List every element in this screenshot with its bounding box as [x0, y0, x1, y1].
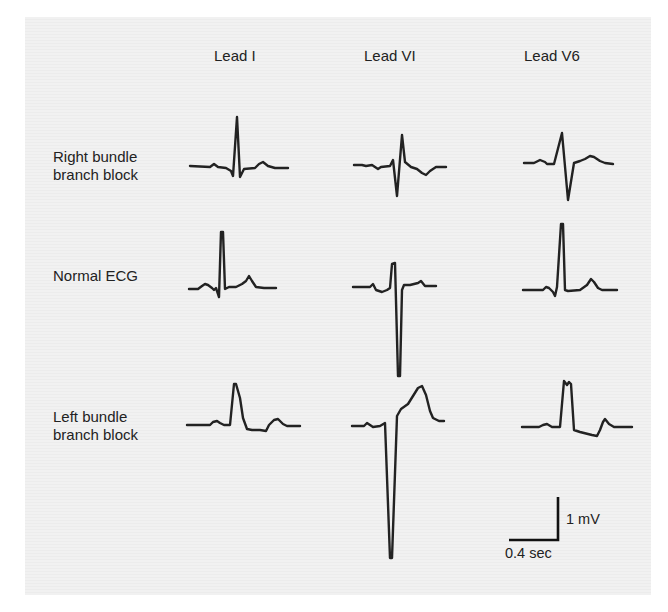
ecg-trace-3	[189, 232, 276, 297]
scale-bar	[509, 497, 558, 540]
ecg-trace-6	[187, 384, 300, 431]
ecg-trace-0	[190, 117, 288, 177]
voltage-scale-label: 1 mV	[566, 511, 600, 527]
ecg-trace-5	[523, 224, 617, 296]
ecg-trace-2	[524, 133, 613, 200]
ecg-trace-7	[352, 386, 444, 558]
ecg-trace-4	[353, 263, 436, 376]
ecg-trace-8	[522, 381, 632, 436]
time-scale-label: 0.4 sec	[505, 545, 552, 561]
ecg-trace-1	[354, 135, 446, 196]
